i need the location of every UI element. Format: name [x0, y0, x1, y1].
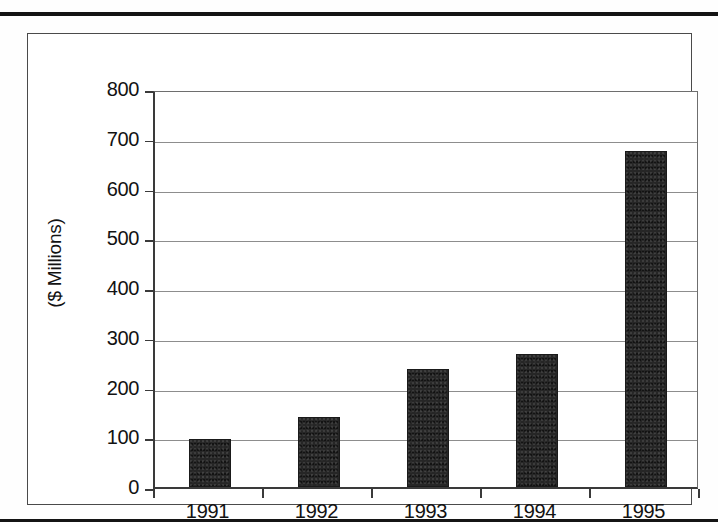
bar [516, 354, 558, 487]
x-axis-tick [480, 489, 482, 498]
x-axis-tick [371, 489, 373, 498]
x-axis-tick-label: 1991 [153, 500, 262, 523]
x-axis-tick-label: 1995 [589, 500, 698, 523]
y-axis-tick-label: 200 [73, 377, 139, 400]
gridline [155, 142, 697, 143]
gridline [155, 291, 697, 292]
y-axis-tick-label-wrap: 400 [67, 277, 139, 297]
y-axis-tick-label: 500 [73, 227, 139, 250]
x-axis-tick [262, 489, 264, 498]
y-axis-tick-label-wrap: 300 [67, 327, 139, 347]
y-axis-tick-label: 300 [73, 327, 139, 350]
page-rule-top [0, 12, 718, 16]
figure-frame: ($ Millions) 0100200300400500600700800 1… [27, 33, 692, 505]
y-axis-tick-label-wrap: 200 [67, 377, 139, 397]
y-axis-tick-label-wrap: 700 [67, 128, 139, 148]
x-axis-tick [698, 489, 700, 498]
bar [625, 151, 667, 487]
x-axis-tick [589, 489, 591, 498]
y-axis-tick-label: 400 [73, 277, 139, 300]
gridline [155, 241, 697, 242]
gridline [155, 192, 697, 193]
y-axis-tick-label: 700 [73, 128, 139, 151]
y-axis-title: ($ Millions) [44, 173, 66, 353]
x-axis-tick-label: 1993 [371, 500, 480, 523]
bar [189, 439, 231, 487]
x-axis-tick [153, 489, 155, 498]
page: ($ Millions) 0100200300400500600700800 1… [0, 0, 718, 527]
y-axis-tick-label-wrap: 0 [67, 476, 139, 496]
plot-area [153, 91, 698, 489]
x-axis-tick-label: 1994 [480, 500, 589, 523]
y-axis-tick-label: 600 [73, 178, 139, 201]
bar [407, 369, 449, 487]
y-axis-tick-label: 100 [73, 426, 139, 449]
gridline [155, 341, 697, 342]
y-axis-tick-label: 800 [73, 78, 139, 101]
x-axis-tick-label: 1992 [262, 500, 371, 523]
y-axis-tick-label-wrap: 500 [67, 227, 139, 247]
y-axis-tick-label: 0 [73, 476, 139, 499]
y-axis-tick-label-wrap: 800 [67, 78, 139, 98]
y-axis-tick-label-wrap: 600 [67, 178, 139, 198]
y-axis-tick-label-wrap: 100 [67, 426, 139, 446]
bar [298, 417, 340, 487]
